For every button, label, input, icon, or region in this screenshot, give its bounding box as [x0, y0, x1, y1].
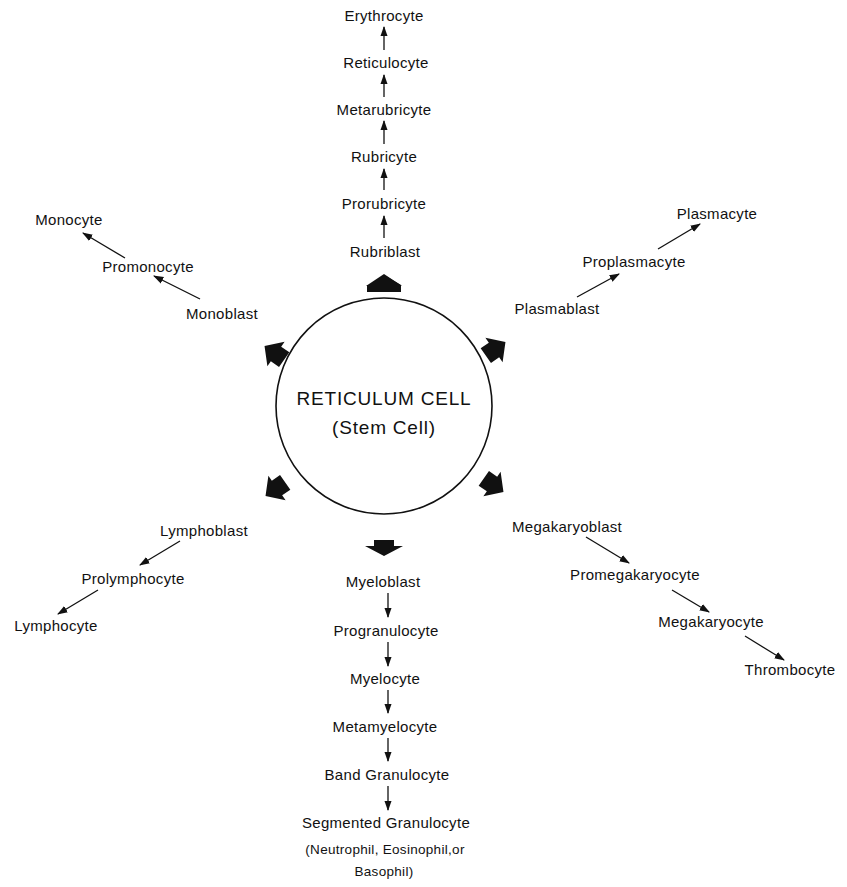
stage-reticulocyte: Reticulocyte — [343, 54, 428, 71]
stage-proplasmacyte: Proplasmacyte — [582, 253, 685, 270]
block-arrow-up-left — [256, 334, 293, 372]
stage-megakaryocyte: Megakaryocyte — [658, 613, 764, 630]
stage-plasmablast: Plasmablast — [514, 300, 599, 317]
stage-myelocyte: Myelocyte — [350, 670, 420, 687]
stage-promegakaryocyte: Promegakaryocyte — [570, 566, 700, 583]
diagram-graphics — [0, 0, 847, 887]
stage-band-granulocyte: Band Granulocyte — [325, 766, 450, 783]
block-arrow-down-right — [475, 466, 512, 504]
stage-lymphocyte: Lymphocyte — [14, 617, 97, 634]
block-arrow-up — [366, 274, 402, 292]
hematopoiesis-diagram: RETICULUM CELL (Stem Cell) Rubriblast Pr… — [0, 0, 847, 887]
stage-rubriblast: Rubriblast — [350, 243, 421, 260]
center-title: RETICULUM CELL — [297, 388, 472, 410]
stage-lymphoblast: Lymphoblast — [160, 522, 248, 539]
stage-rubricyte: Rubricyte — [351, 148, 417, 165]
stage-thrombocyte: Thrombocyte — [745, 661, 836, 678]
stage-segmented-granulocyte: Segmented Granulocyte — [302, 814, 470, 831]
granulocyte-types-note-line1: (Neutrophil, Eosinophil,or — [305, 842, 464, 857]
stage-progranulocyte: Progranulocyte — [333, 622, 438, 639]
block-arrow-down-left — [257, 470, 294, 508]
stage-metamyelocyte: Metamyelocyte — [333, 718, 438, 735]
stage-monoblast: Monoblast — [186, 305, 258, 322]
mega-arrows — [586, 537, 784, 660]
stage-plasmacyte: Plasmacyte — [677, 205, 758, 222]
stage-prolymphocyte: Prolymphocyte — [81, 570, 184, 587]
stage-myeloblast: Myeloblast — [346, 573, 421, 590]
stage-metarubricyte: Metarubricyte — [337, 101, 432, 118]
stage-prorubricyte: Prorubricyte — [342, 195, 426, 212]
block-arrow-down — [365, 540, 403, 556]
stage-monocyte: Monocyte — [35, 211, 102, 228]
center-subtitle: (Stem Cell) — [332, 417, 436, 439]
stage-promonocyte: Promonocyte — [102, 258, 194, 275]
stage-erythrocyte: Erythrocyte — [344, 7, 423, 24]
stage-megakaryoblast: Megakaryoblast — [512, 518, 622, 535]
granulocyte-types-note-line2: Basophil) — [355, 864, 414, 879]
